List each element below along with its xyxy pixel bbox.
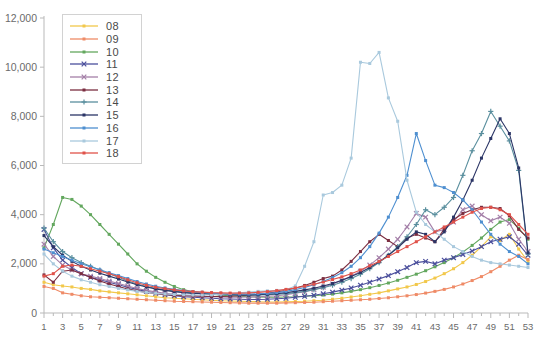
legend-label-15: 15 [99, 109, 119, 121]
legend-item-16[interactable]: 16 [69, 122, 135, 135]
legend-swatch-18-icon [69, 147, 99, 159]
legend-swatch-17-icon [69, 135, 99, 147]
y-axis-tick-label: 2,000 [11, 257, 37, 269]
x-axis-tick-label: 9 [116, 321, 121, 332]
x-axis-tick-label: 49 [485, 321, 496, 332]
y-axis-tick-label: 8,000 [11, 110, 37, 122]
x-axis-tick-label: 31 [318, 321, 329, 332]
legend-swatch-12-icon [69, 71, 99, 83]
legend-label-09: 09 [99, 33, 119, 45]
x-axis-tick-label: 41 [411, 321, 422, 332]
x-axis-tick-label: 47 [467, 321, 478, 332]
x-axis-tick-label: 15 [169, 321, 180, 332]
legend-label-14: 14 [99, 96, 119, 108]
x-axis-tick-label: 19 [206, 321, 217, 332]
x-axis-tick-label: 25 [262, 321, 273, 332]
x-axis-tick-label: 43 [430, 321, 441, 332]
y-axis-tick-label: 6,000 [11, 159, 37, 171]
legend-label-11: 11 [99, 58, 118, 70]
x-axis-tick-label: 51 [504, 321, 515, 332]
x-axis-tick-label: 37 [374, 321, 385, 332]
x-axis-tick-label: 21 [225, 321, 236, 332]
legend-item-15[interactable]: 15 [69, 109, 135, 122]
x-axis-tick-label: 11 [132, 321, 142, 332]
legend-item-12[interactable]: 12 [69, 71, 135, 84]
y-axis-tick-label: 10,000 [5, 61, 37, 73]
legend-label-18: 18 [99, 147, 119, 159]
legend-item-13[interactable]: 13 [69, 83, 135, 96]
y-axis-tick-label: 4,000 [11, 208, 37, 220]
legend-label-13: 13 [99, 84, 119, 96]
legend-item-17[interactable]: 17 [69, 134, 135, 147]
legend-item-18[interactable]: 18 [69, 147, 135, 160]
legend-swatch-09-icon [69, 33, 99, 45]
x-axis-tick-label: 45 [448, 321, 459, 332]
y-axis-tick-label: 0 [31, 307, 37, 319]
y-axis: 02,0004,0006,0008,00010,00012,000 [5, 12, 44, 319]
legend: 0809101112131415161718 [62, 14, 142, 164]
x-axis-tick-label: 1 [41, 321, 46, 332]
x-axis-tick-label: 35 [355, 321, 366, 332]
legend-item-08[interactable]: 08 [69, 20, 135, 33]
x-axis-tick-label: 23 [243, 321, 254, 332]
x-axis-tick-label: 27 [281, 321, 292, 332]
legend-label-10: 10 [99, 46, 119, 58]
legend-item-14[interactable]: 14 [69, 96, 135, 109]
x-axis-tick-label: 5 [79, 321, 84, 332]
x-axis-tick-label: 7 [97, 321, 102, 332]
y-axis-tick-label: 12,000 [5, 12, 37, 24]
legend-swatch-16-icon [69, 122, 99, 134]
x-axis-tick-label: 17 [188, 321, 199, 332]
legend-item-11[interactable]: 11 [69, 58, 135, 71]
x-axis: 1357911131517192123252729313335373941434… [41, 313, 533, 332]
legend-swatch-10-icon [69, 46, 99, 58]
legend-swatch-15-icon [69, 109, 99, 121]
line-chart: 02,0004,0006,0008,00010,00012,000 135791… [0, 0, 535, 338]
x-axis-tick-label: 39 [392, 321, 403, 332]
x-axis-tick-label: 3 [60, 321, 65, 332]
x-axis-tick-label: 13 [150, 321, 161, 332]
legend-label-12: 12 [99, 71, 119, 83]
legend-swatch-13-icon [69, 84, 99, 96]
x-axis-tick-label: 53 [523, 321, 534, 332]
legend-label-17: 17 [99, 135, 119, 147]
x-axis-tick-label: 33 [337, 321, 348, 332]
legend-label-16: 16 [99, 122, 119, 134]
legend-label-08: 08 [99, 20, 119, 32]
series-18 [43, 206, 530, 295]
x-axis-tick-label: 29 [299, 321, 310, 332]
legend-swatch-11-icon [69, 58, 99, 70]
legend-swatch-08-icon [69, 20, 99, 32]
legend-item-09[interactable]: 09 [69, 33, 135, 46]
legend-item-10[interactable]: 10 [69, 45, 135, 58]
legend-swatch-14-icon [69, 96, 99, 108]
